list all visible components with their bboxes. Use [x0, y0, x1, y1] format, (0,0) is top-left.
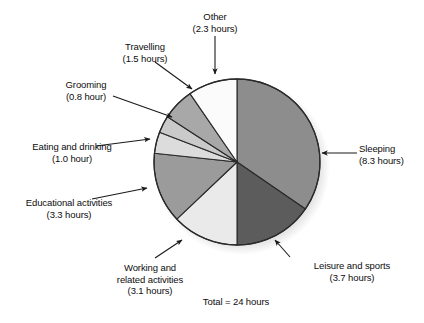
slice-label-sleeping: Sleeping (8.3 hours): [359, 143, 423, 166]
slice-label-working-and-related-activities: Working and related activities (3.1 hour…: [98, 262, 202, 297]
chart-total-caption: Total = 24 hours: [176, 296, 296, 308]
slice-label-educational-activities: Educational activities (3.3 hours): [7, 197, 131, 220]
slice-label-other-hours: (2.3 hours): [176, 23, 254, 35]
slice-label-leisure-hours: (3.7 hours): [290, 272, 414, 284]
slice-label-other: Other (2.3 hours): [176, 11, 254, 34]
slice-label-eating-hours: (1.0 hour): [14, 153, 130, 165]
slice-label-educational-name: Educational activities: [7, 197, 131, 209]
slice-label-grooming-hours: (0.8 hour): [47, 91, 125, 103]
leader-working: [155, 240, 182, 258]
slice-label-leisure-name: Leisure and sports: [290, 260, 414, 272]
pie-chart-figure: Sleeping (8.3 hours)Leisure and sports (…: [0, 0, 424, 323]
slice-label-travelling: Travelling (1.5 hours): [106, 41, 184, 64]
slice-label-sleeping-name: Sleeping: [359, 143, 423, 155]
chart-total-text: Total = 24 hours: [176, 296, 296, 308]
pie-slice-group: Sleeping (8.3 hours)Leisure and sports (…: [154, 79, 320, 245]
slice-label-working-name-line2: related activities: [98, 274, 202, 286]
slice-label-sleeping-hours: (8.3 hours): [359, 155, 423, 167]
slice-label-leisure-and-sports: Leisure and sports (3.7 hours): [290, 260, 414, 283]
slice-label-grooming-name: Grooming: [47, 79, 125, 91]
slice-label-eating-and-drinking: Eating and drinking (1.0 hour): [14, 141, 130, 164]
slice-label-eating-name: Eating and drinking: [14, 141, 130, 153]
slice-label-travelling-name: Travelling: [106, 41, 184, 53]
slice-label-educational-hours: (3.3 hours): [7, 209, 131, 221]
slice-label-working-name-line1: Working and: [98, 262, 202, 274]
slice-label-travelling-hours: (1.5 hours): [106, 53, 184, 65]
slice-label-other-name: Other: [176, 11, 254, 23]
slice-label-working-hours: (3.1 hours): [98, 285, 202, 297]
slice-label-grooming: Grooming (0.8 hour): [47, 79, 125, 102]
leader-travelling: [155, 62, 192, 89]
